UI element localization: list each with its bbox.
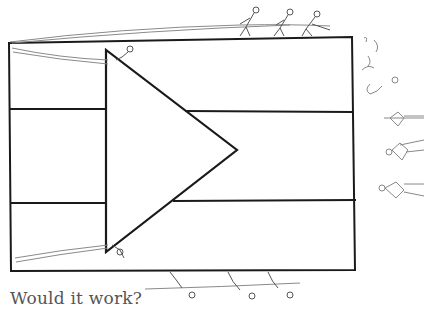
right-figures bbox=[362, 38, 424, 199]
triangle-figures bbox=[112, 46, 133, 258]
bottom-figures bbox=[170, 272, 293, 299]
flag-outline bbox=[9, 37, 356, 271]
sketch-drawing bbox=[0, 0, 434, 312]
caption-question: Would it work? bbox=[10, 288, 142, 308]
ropes bbox=[10, 25, 330, 289]
top-figures bbox=[240, 7, 330, 36]
